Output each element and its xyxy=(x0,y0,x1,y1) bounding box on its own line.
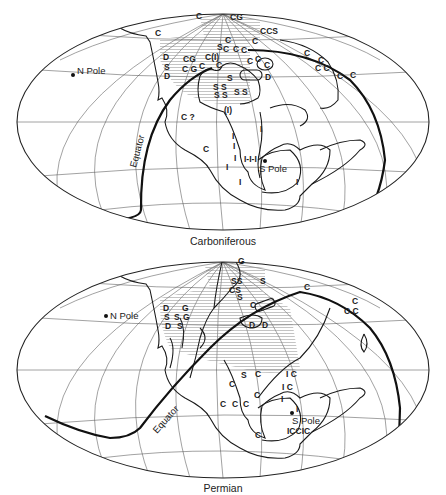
climate-symbol: C xyxy=(352,296,358,306)
climate-symbol: C xyxy=(232,399,238,409)
climate-symbol: C xyxy=(203,144,209,154)
climate-symbol: I xyxy=(226,162,228,172)
climate-symbol: I xyxy=(239,177,241,187)
north-pole-marker xyxy=(71,73,75,77)
climate-symbol: C xyxy=(255,369,261,379)
climate-symbol: S xyxy=(177,321,183,331)
climate-symbol: C xyxy=(155,28,161,38)
climate-symbol: S S xyxy=(214,90,228,100)
climate-symbol: C xyxy=(223,44,229,54)
climate-symbol: C ? xyxy=(181,112,195,122)
climate-symbol: I C xyxy=(282,382,293,392)
climate-symbol: D xyxy=(164,71,170,81)
climate-symbol: C xyxy=(229,379,235,389)
climate-symbol: D xyxy=(163,52,169,62)
climate-symbol: I xyxy=(232,131,234,141)
climate-symbol: S xyxy=(241,370,247,380)
climate-symbol: C xyxy=(255,430,261,440)
climate-symbol: D xyxy=(249,320,255,330)
climate-symbol: S S xyxy=(234,87,248,97)
climate-symbol: I xyxy=(296,177,298,187)
climate-symbol: S xyxy=(260,276,266,286)
climate-symbol: G xyxy=(238,256,245,266)
climate-symbol: CG xyxy=(183,54,196,64)
permian-map-panel: N Pole Equator GDGSSGDSSSSCSSCDDCCC.CSCI… xyxy=(0,248,446,495)
climate-symbol: C xyxy=(220,399,226,409)
climate-symbol: C xyxy=(196,11,202,21)
climate-symbol: C xyxy=(243,399,249,409)
climate-symbol: S xyxy=(237,292,243,302)
climate-symbol: (I) xyxy=(224,105,232,115)
panel-caption: Carboniferous xyxy=(0,235,446,247)
climate-symbol: S Pole xyxy=(292,415,320,426)
climate-symbol: C xyxy=(304,48,310,58)
climate-symbol: D xyxy=(265,72,271,82)
north-pole-label: N Pole xyxy=(110,310,139,321)
climate-symbol: G xyxy=(183,312,190,322)
climate-symbol: C xyxy=(264,60,270,70)
climate-symbol: I xyxy=(260,124,262,134)
climate-symbol: C xyxy=(241,45,247,55)
climate-symbol: I xyxy=(234,153,236,163)
climate-symbol: S xyxy=(227,73,233,83)
climate-symbol: C xyxy=(250,300,256,310)
climate-symbol: C.C xyxy=(344,306,359,316)
climate-symbol: I C xyxy=(286,369,297,379)
south-pole-label: S Pole xyxy=(259,163,287,174)
climate-symbol: C xyxy=(216,60,222,70)
climate-symbol: C C xyxy=(315,63,330,73)
north-pole-label: N Pole xyxy=(77,65,106,76)
climate-symbol: CCS xyxy=(260,26,278,36)
climate-symbol: D xyxy=(165,321,171,331)
carboniferous-map: N Pole S Pole Equator CDSDCGC GCC(I)CCCG… xyxy=(0,0,446,248)
climate-symbol: C xyxy=(255,54,261,64)
climate-symbol: C xyxy=(350,70,356,80)
permian-map: N Pole Equator GDGSSGDSSSSCSSCDDCCC.CSCI… xyxy=(0,248,446,495)
climate-symbol: D xyxy=(262,320,268,330)
climate-symbol: C xyxy=(254,390,260,400)
climate-symbol: C xyxy=(304,282,310,292)
graticule xyxy=(17,262,429,478)
climate-symbol: C xyxy=(247,56,253,66)
carboniferous-map-panel: N Pole S Pole Equator CDSDCGC GCC(I)CCCG… xyxy=(0,0,446,248)
climate-symbol: I-I-I xyxy=(244,154,257,164)
climate-symbol: I xyxy=(233,141,235,151)
climate-symbol: I xyxy=(281,394,283,404)
climate-symbol: CG xyxy=(230,12,243,22)
climate-symbol: C xyxy=(199,61,205,71)
climate-symbol: ICCIC xyxy=(287,426,310,436)
climate-symbol: C xyxy=(252,36,258,46)
climate-symbol: I xyxy=(296,404,298,414)
climate-symbol: C xyxy=(233,44,239,54)
north-pole-marker xyxy=(104,314,108,318)
climate-symbol: C G xyxy=(182,64,198,74)
panel-caption: Permian xyxy=(0,482,446,494)
climate-symbol: C xyxy=(337,71,343,81)
